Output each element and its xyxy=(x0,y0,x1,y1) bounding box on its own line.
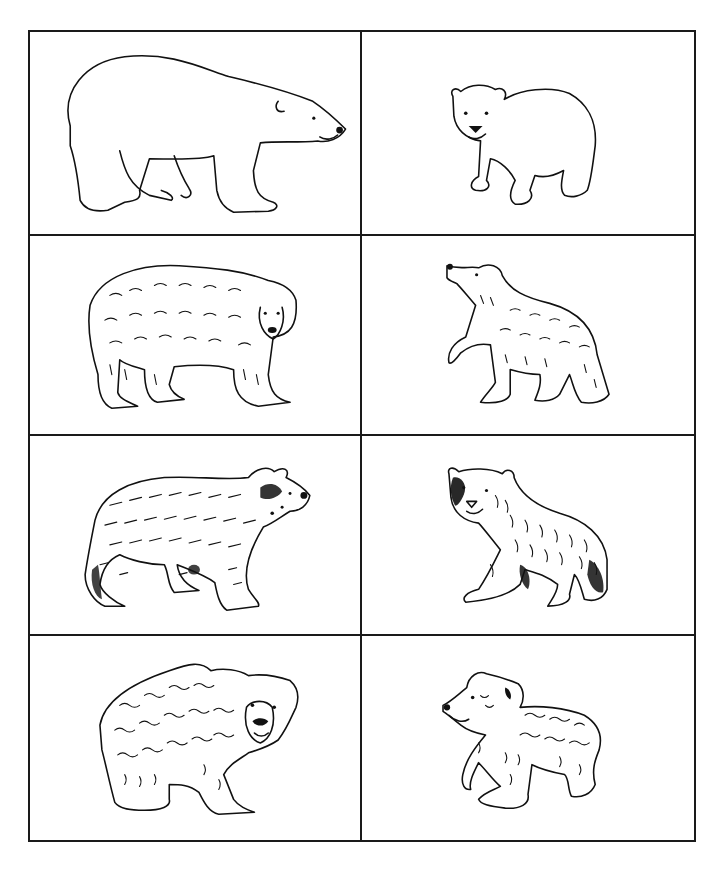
brown-bear-cub-icon xyxy=(362,236,694,434)
spectacled-bear-cub-icon xyxy=(362,436,694,634)
brown-bear-adult-icon xyxy=(30,236,360,434)
card-polar-bear-cub[interactable]: polar bear xyxy=(362,32,694,236)
card-brown-bear-adult[interactable]: brown bear xyxy=(30,236,362,436)
card-spectacled-bear-adult[interactable]: spectacled bear xyxy=(30,436,362,636)
card-sloth-bear-cub[interactable]: sloth bear xyxy=(362,636,694,840)
spectacled-bear-adult-icon xyxy=(30,436,360,634)
polar-bear-cub-icon xyxy=(362,32,694,234)
sloth-bear-cub-icon xyxy=(362,636,694,840)
card-sloth-bear-adult[interactable]: sloth bear xyxy=(30,636,362,840)
polar-bear-adult-icon xyxy=(30,32,360,234)
card-polar-bear-adult[interactable]: polar bear xyxy=(30,32,362,236)
bear-matching-grid: polar bear polar bear brown bear xyxy=(28,30,696,842)
sloth-bear-adult-icon xyxy=(30,636,360,840)
card-brown-bear-cub[interactable]: brown bear xyxy=(362,236,694,436)
card-spectacled-bear-cub[interactable]: spectacled bear xyxy=(362,436,694,636)
